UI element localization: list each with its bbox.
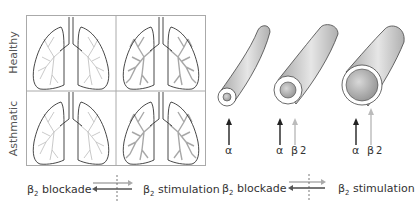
- label-alpha-large: α: [352, 144, 359, 157]
- lung-healthy-stimulation: [123, 17, 199, 89]
- right-caption-blockade: β2 blockade: [222, 182, 286, 197]
- lung-asthmatic-stimulation: [123, 92, 199, 164]
- label-alpha-medium: α: [276, 144, 283, 157]
- beta-symbol: β: [291, 144, 298, 157]
- lung-asthmatic-blockade: [33, 92, 109, 164]
- bronchus-medium: [274, 25, 338, 104]
- beta-subscript: 2: [300, 145, 306, 156]
- alpha-arrow-icon: [353, 118, 359, 145]
- left-caption-blockade: β2 blockade: [27, 183, 91, 198]
- beta-symbol: β: [222, 182, 229, 195]
- right-caption-stimulation: β2 stimulation: [338, 182, 415, 197]
- blockade-text: blockade: [234, 182, 287, 195]
- alpha-arrow-icon: [277, 118, 283, 145]
- bronchus-large: [342, 26, 404, 106]
- beta-symbol: β: [367, 144, 374, 157]
- beta-subscript: 2: [376, 145, 382, 156]
- beta2-arrow-icon: [292, 118, 298, 145]
- bronchus-small: [218, 26, 270, 106]
- beta-symbol: β: [27, 183, 34, 196]
- beta-symbol: β: [338, 182, 345, 195]
- row-label-asthmatic: Asthmatic: [7, 94, 20, 164]
- alpha-arrow-icon: [226, 118, 232, 145]
- lungs-illustration: [26, 15, 206, 166]
- lung-healthy-blockade: [33, 17, 109, 89]
- beta-symbol: β: [143, 183, 150, 196]
- stimulation-text: stimulation: [155, 183, 220, 196]
- blockade-text: blockade: [39, 183, 92, 196]
- label-alpha-small: α: [225, 144, 232, 157]
- beta2-arrow-icon: [368, 108, 374, 145]
- label-beta2-medium: β2: [291, 144, 306, 157]
- label-beta2-large: β2: [367, 144, 382, 157]
- stimulation-text: stimulation: [350, 182, 415, 195]
- row-label-healthy: Healthy: [7, 18, 20, 88]
- left-caption-stimulation: β2 stimulation: [143, 183, 220, 198]
- bidirectional-arrow-icon: [287, 173, 327, 201]
- bidirectional-arrow-icon: [90, 174, 135, 202]
